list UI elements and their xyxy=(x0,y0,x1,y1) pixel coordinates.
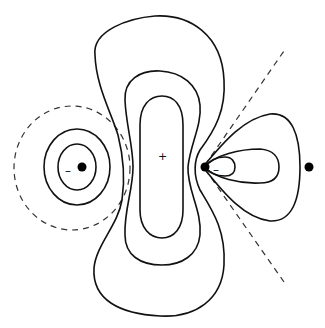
center-lobe-middle-contour xyxy=(125,71,200,265)
right-nodal-line-lower xyxy=(205,169,284,282)
right-atom xyxy=(305,163,314,172)
left-atom xyxy=(78,163,87,172)
orbital-contour-diagram: + – – xyxy=(0,0,325,328)
left-lobe-sign: – xyxy=(65,164,71,178)
left-lobe-inner-contour xyxy=(58,144,96,190)
left-lobe-outer-contour xyxy=(44,129,110,205)
center-atom xyxy=(201,163,210,172)
left-nodal-circle xyxy=(14,106,130,230)
center-lobe-inner-contour xyxy=(140,96,183,238)
center-lobe-sign: + xyxy=(158,150,167,163)
right-nodal-line-upper xyxy=(205,48,286,165)
right-lobe-sign: – xyxy=(213,163,219,177)
